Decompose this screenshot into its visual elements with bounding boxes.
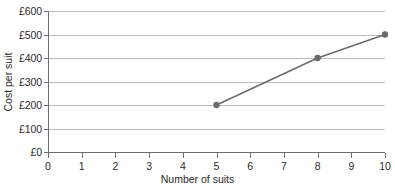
x-axis-title: Number of suits xyxy=(0,173,395,185)
series-line xyxy=(217,35,386,106)
y-axis-title: Cost per suit xyxy=(2,53,14,112)
data-point-marker xyxy=(314,55,320,61)
line-chart: £0£100£200£300£400£500£600 012345678910 … xyxy=(0,0,395,194)
data-point-marker xyxy=(213,102,219,108)
y-axis-title-wrapper: Cost per suit xyxy=(10,0,11,194)
data-point-marker xyxy=(382,31,388,37)
data-series-layer xyxy=(0,0,395,194)
